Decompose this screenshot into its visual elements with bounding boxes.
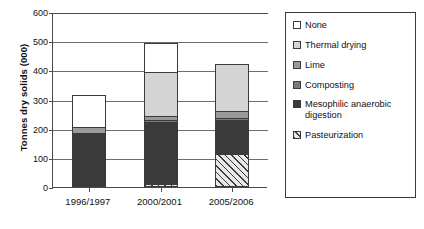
y-tick-mark-100 xyxy=(49,159,53,160)
bar-2005-2006 xyxy=(215,64,249,187)
plot-area: 0100200300400500600 xyxy=(52,13,267,188)
y-tick-label-0: 0 xyxy=(43,183,48,193)
bar-segment-mesophilic-anaerobic-digestion xyxy=(144,122,178,186)
swatch-composting-icon xyxy=(293,81,301,89)
bar-segment-none xyxy=(72,95,106,128)
bar-segment-mesophilic-anaerobic-digestion xyxy=(215,120,249,155)
swatch-thermal-drying-icon xyxy=(293,41,301,49)
y-tick-mark-0 xyxy=(49,188,53,189)
bar-segment-thermal-drying xyxy=(144,72,178,117)
swatch-mesophilic-anaerobic-digestion-icon xyxy=(293,100,301,108)
legend-item-composting[interactable]: Composting xyxy=(293,80,409,91)
legend-item-thermal-drying[interactable]: Thermal drying xyxy=(293,40,409,51)
y-tick-label-100: 100 xyxy=(33,154,48,164)
bar-segment-thermal-drying xyxy=(215,64,249,112)
swatch-lime-icon xyxy=(293,61,301,69)
y-tick-label-600: 600 xyxy=(33,8,48,18)
legend-label: Pasteurization xyxy=(305,130,363,141)
legend-label: Mesophilic anaerobic digestion xyxy=(305,99,409,121)
y-tick-mark-500 xyxy=(49,42,53,43)
legend-label: Composting xyxy=(305,80,354,91)
bar-segment-pasteurization xyxy=(215,154,249,187)
legend-item-mesophilic-anaerobic-digestion[interactable]: Mesophilic anaerobic digestion xyxy=(293,99,409,121)
bar-segment-mesophilic-anaerobic-digestion xyxy=(72,134,106,187)
x-tick-label-2000-2001: 2000/2001 xyxy=(120,196,200,207)
y-tick-label-300: 300 xyxy=(33,96,48,106)
legend-label: None xyxy=(305,20,327,31)
legend-item-pasteurization[interactable]: Pasteurization xyxy=(293,130,409,141)
bar-1996-1997 xyxy=(72,95,106,187)
swatch-pasteurization-icon xyxy=(293,131,301,139)
x-tick-label-1996-1997: 1996/1997 xyxy=(48,196,128,207)
y-tick-label-500: 500 xyxy=(33,37,48,47)
y-tick-label-200: 200 xyxy=(33,125,48,135)
y-tick-mark-300 xyxy=(49,101,53,102)
legend-label: Lime xyxy=(305,60,325,71)
x-tick-mark-1 xyxy=(161,187,162,192)
x-tick-mark-2 xyxy=(232,187,233,192)
bar-segment-none xyxy=(144,43,178,73)
chart-legend: NoneThermal dryingLimeCompostingMesophil… xyxy=(285,12,416,198)
x-tick-mark-0 xyxy=(89,187,90,192)
y-tick-label-400: 400 xyxy=(33,66,48,76)
legend-label: Thermal drying xyxy=(305,40,366,51)
y-tick-mark-400 xyxy=(49,71,53,72)
gridline-600 xyxy=(53,13,268,14)
swatch-none-icon xyxy=(293,21,301,29)
bar-2000-2001 xyxy=(144,43,178,187)
y-tick-mark-600 xyxy=(49,13,53,14)
chart-figure: Tonnes dry solids (000) 0100200300400500… xyxy=(0,0,424,229)
legend-item-none[interactable]: None xyxy=(293,20,409,31)
x-tick-label-2005-2006: 2005/2006 xyxy=(191,196,271,207)
bar-segment-lime xyxy=(215,111,249,119)
bar-segment-lime xyxy=(72,127,106,134)
y-tick-mark-200 xyxy=(49,130,53,131)
y-axis-title: Tonnes dry solids (000) xyxy=(18,13,29,183)
legend-item-lime[interactable]: Lime xyxy=(293,60,409,71)
